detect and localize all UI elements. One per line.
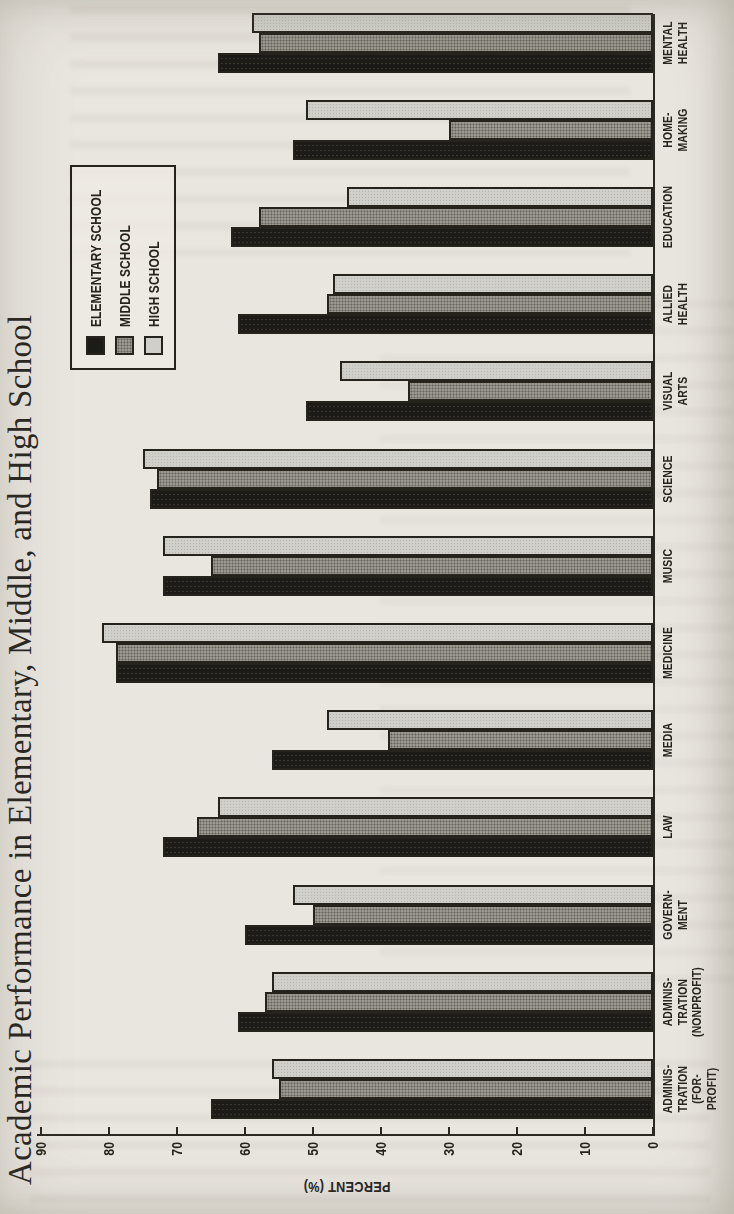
- legend: ELEMENTARY SCHOOL MIDDLE SCHOOL HIGH SCH…: [70, 165, 176, 370]
- bar-mental-health-high-school: [252, 13, 653, 33]
- bar-home-making-elementary-school: [293, 140, 653, 160]
- category-label-adminis-tration-nonprofit: ADMINIS-TRATION(NONPROFIT): [661, 967, 705, 1037]
- bar-science-high-school: [143, 449, 653, 469]
- percent-axis-tick: [40, 1127, 42, 1136]
- percent-axis-line: [37, 1134, 655, 1136]
- bar-science-middle-school: [157, 469, 653, 489]
- bar-medicine-high-school: [102, 623, 653, 643]
- percent-tick-label: 0: [644, 1142, 662, 1173]
- bar-allied-health-elementary-school: [238, 314, 653, 334]
- percent-axis-tick: [176, 1127, 178, 1136]
- legend-label-elementary: ELEMENTARY SCHOOL: [88, 190, 104, 327]
- percent-tick-label: 90: [32, 1142, 50, 1173]
- percent-tick-label: 70: [168, 1142, 186, 1173]
- bar-adminis-tration-nonprofit-elementary-school: [238, 1012, 653, 1032]
- legend-swatch-middle-icon: [115, 336, 134, 355]
- bar-home-making-middle-school: [449, 120, 653, 140]
- category-label-media: MEDIA: [661, 705, 676, 775]
- percent-tick-label: 80: [100, 1142, 118, 1173]
- percent-axis-tick: [584, 1127, 586, 1136]
- legend-label-high: HIGH SCHOOL: [146, 241, 162, 327]
- bar-home-making-high-school: [306, 100, 653, 120]
- legend-swatch-elementary-icon: [86, 336, 105, 355]
- bar-medicine-middle-school: [116, 643, 653, 663]
- bar-music-middle-school: [211, 556, 653, 576]
- bar-visual-arts-middle-school: [408, 381, 653, 401]
- bar-adminis-tration-for-profit-elementary-school: [211, 1099, 653, 1119]
- legend-swatch-high-icon: [144, 336, 163, 355]
- category-label-education: EDUCATION: [661, 182, 676, 252]
- legend-item-elementary: ELEMENTARY SCHOOL: [81, 167, 110, 355]
- bar-adminis-tration-nonprofit-middle-school: [265, 992, 653, 1012]
- category-label-home-making: HOME-MAKING: [661, 95, 690, 165]
- percent-axis-tick: [312, 1127, 314, 1136]
- percent-axis-tick: [380, 1127, 382, 1136]
- legend-label-middle: MIDDLE SCHOOL: [117, 225, 133, 327]
- bar-visual-arts-elementary-school: [306, 401, 653, 421]
- bar-govern-ment-elementary-school: [245, 925, 653, 945]
- percent-axis-tick: [652, 1127, 654, 1136]
- category-label-mental-health: MENTALHEALTH: [661, 8, 690, 78]
- bar-law-middle-school: [197, 817, 653, 837]
- bar-visual-arts-high-school: [340, 361, 653, 381]
- bar-allied-health-high-school: [333, 274, 653, 294]
- bar-music-high-school: [163, 536, 653, 556]
- category-label-music: MUSIC: [661, 531, 676, 601]
- percent-tick-label: 50: [304, 1142, 322, 1173]
- bar-science-elementary-school: [150, 489, 653, 509]
- category-label-allied-health: ALLIEDHEALTH: [661, 269, 690, 339]
- chart-title: Academic Performance in Elementary, Midd…: [2, 314, 39, 1185]
- bar-music-elementary-school: [163, 576, 653, 596]
- category-label-adminis-tration-for-profit: ADMINIS-TRATION(FOR-PROFIT): [661, 1054, 719, 1124]
- bar-allied-health-middle-school: [327, 294, 653, 314]
- percent-tick-label: 40: [372, 1142, 390, 1173]
- category-label-govern-ment: GOVERN-MENT: [661, 880, 690, 950]
- bar-media-high-school: [327, 710, 653, 730]
- category-label-visual-arts: VISUALARTS: [661, 356, 690, 426]
- bar-adminis-tration-for-profit-high-school: [272, 1059, 653, 1079]
- percent-tick-label: 10: [576, 1142, 594, 1173]
- category-label-medicine: MEDICINE: [661, 618, 676, 688]
- percent-axis-tick: [516, 1127, 518, 1136]
- percent-axis-tick: [244, 1127, 246, 1136]
- bar-medicine-elementary-school: [116, 663, 653, 683]
- bar-govern-ment-high-school: [293, 885, 653, 905]
- percent-axis-tick: [448, 1127, 450, 1136]
- bar-chart-figure: Academic Performance in Elementary, Midd…: [0, 0, 734, 1214]
- percent-tick-label: 20: [508, 1142, 526, 1173]
- category-axis-line: [653, 14, 655, 1136]
- bar-law-elementary-school: [163, 837, 653, 857]
- legend-item-high: HIGH SCHOOL: [139, 167, 168, 355]
- bar-education-middle-school: [259, 207, 653, 227]
- scanned-book-page: Academic Performance in Elementary, Midd…: [0, 0, 734, 1214]
- legend-item-middle: MIDDLE SCHOOL: [110, 167, 139, 355]
- bar-law-high-school: [218, 797, 653, 817]
- bar-mental-health-elementary-school: [218, 53, 653, 73]
- category-label-science: SCIENCE: [661, 444, 676, 514]
- percent-axis-tick: [108, 1127, 110, 1136]
- percent-axis-label: PERCENT (%): [303, 1179, 390, 1196]
- bar-adminis-tration-nonprofit-high-school: [272, 972, 653, 992]
- percent-tick-label: 60: [236, 1142, 254, 1173]
- percent-tick-label: 30: [440, 1142, 458, 1173]
- bar-education-elementary-school: [231, 227, 653, 247]
- category-label-law: LAW: [661, 792, 676, 862]
- bar-mental-health-middle-school: [259, 33, 653, 53]
- bar-adminis-tration-for-profit-middle-school: [279, 1079, 653, 1099]
- bar-media-middle-school: [388, 730, 653, 750]
- bar-media-elementary-school: [272, 750, 653, 770]
- bar-education-high-school: [347, 187, 653, 207]
- bar-govern-ment-middle-school: [313, 905, 653, 925]
